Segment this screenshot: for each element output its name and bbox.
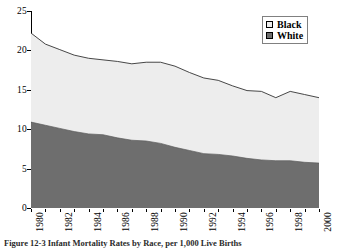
chart-area: 0510152025 Black White 19801982198419861…: [0, 0, 347, 232]
x-tick-label: 1982: [64, 212, 74, 232]
x-tick-mark: [89, 209, 90, 212]
legend-swatch-white: [266, 32, 273, 39]
x-tick-mark: [60, 209, 61, 212]
x-tick-mark: [305, 209, 306, 212]
x-tick-mark: [319, 209, 320, 212]
figure-container: 0510152025 Black White 19801982198419861…: [0, 0, 347, 248]
y-tick-label: 20: [3, 45, 27, 55]
figure-caption: Figure 12-3 Infant Mortality Rates by Ra…: [4, 239, 344, 248]
y-tick-label: 10: [3, 124, 27, 134]
x-tick-mark: [218, 209, 219, 212]
y-tick-mark: [27, 90, 31, 91]
legend-swatch-black: [266, 21, 273, 28]
x-tick-mark: [175, 209, 176, 212]
x-tick-mark: [31, 209, 32, 212]
x-tick-label: 1998: [294, 212, 304, 232]
x-tick-mark: [161, 209, 162, 212]
x-tick-label: 1992: [208, 212, 218, 232]
x-tick-mark: [132, 209, 133, 212]
y-tick-mark: [27, 11, 31, 12]
x-tick-label: 1988: [150, 212, 160, 232]
x-tick-mark: [233, 209, 234, 212]
legend-item-white: White: [266, 30, 303, 41]
x-tick-label: 1994: [237, 212, 247, 232]
y-tick-label: 15: [3, 85, 27, 95]
x-tick-mark: [117, 209, 118, 212]
chart-legend: Black White: [262, 16, 308, 44]
x-tick-label: 2000: [323, 212, 333, 232]
y-tick-label: 0: [3, 203, 27, 213]
legend-label-black: Black: [277, 19, 301, 30]
x-tick-mark: [74, 209, 75, 212]
x-tick-label: 1990: [179, 212, 189, 232]
x-tick-mark: [103, 209, 104, 212]
y-tick-label: 5: [3, 164, 27, 174]
x-tick-label: 1980: [35, 212, 45, 232]
x-tick-mark: [276, 209, 277, 212]
x-tick-mark: [189, 209, 190, 212]
legend-label-white: White: [277, 30, 303, 41]
y-axis: 0510152025: [0, 0, 27, 232]
x-tick-label: 1996: [265, 212, 275, 232]
y-tick-mark: [27, 129, 31, 130]
y-tick-mark: [27, 208, 31, 209]
legend-item-black: Black: [266, 19, 303, 30]
x-tick-mark: [261, 209, 262, 212]
y-tick-mark: [27, 169, 31, 170]
x-tick-mark: [290, 209, 291, 212]
x-tick-label: 1984: [93, 212, 103, 232]
x-tick-label: 1986: [121, 212, 131, 232]
y-tick-mark: [27, 50, 31, 51]
x-tick-mark: [146, 209, 147, 212]
x-tick-mark: [204, 209, 205, 212]
x-tick-mark: [45, 209, 46, 212]
x-tick-mark: [247, 209, 248, 212]
y-tick-label: 25: [3, 6, 27, 16]
